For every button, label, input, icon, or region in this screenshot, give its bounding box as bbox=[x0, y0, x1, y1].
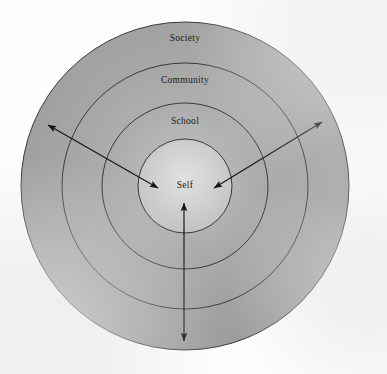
ring-label-community: Community bbox=[161, 75, 209, 85]
ring-label-self: Self bbox=[177, 180, 194, 190]
ring-label-society: Society bbox=[170, 33, 201, 43]
ring-label-school: School bbox=[171, 116, 199, 126]
concentric-circles-diagram: Society Community School Self bbox=[0, 0, 387, 374]
diagram-canvas: Society Community School Self bbox=[0, 0, 387, 374]
